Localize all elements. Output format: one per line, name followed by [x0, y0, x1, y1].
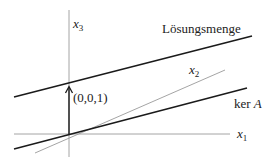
x2-label: x2 — [188, 62, 199, 79]
x2-axis — [35, 70, 225, 153]
diagram-canvas: x3 (0,0,1) x2 x1 Lösungsmenge ker A — [0, 0, 277, 161]
kernel-label: ker A — [234, 96, 262, 111]
solution-set-line — [14, 36, 252, 97]
x1-label: x1 — [236, 126, 247, 143]
vector-label: (0,0,1) — [73, 90, 108, 105]
kernel-line — [14, 88, 247, 149]
x3-label: x3 — [72, 16, 84, 33]
solution-set-label: Lösungsmenge — [162, 21, 241, 36]
